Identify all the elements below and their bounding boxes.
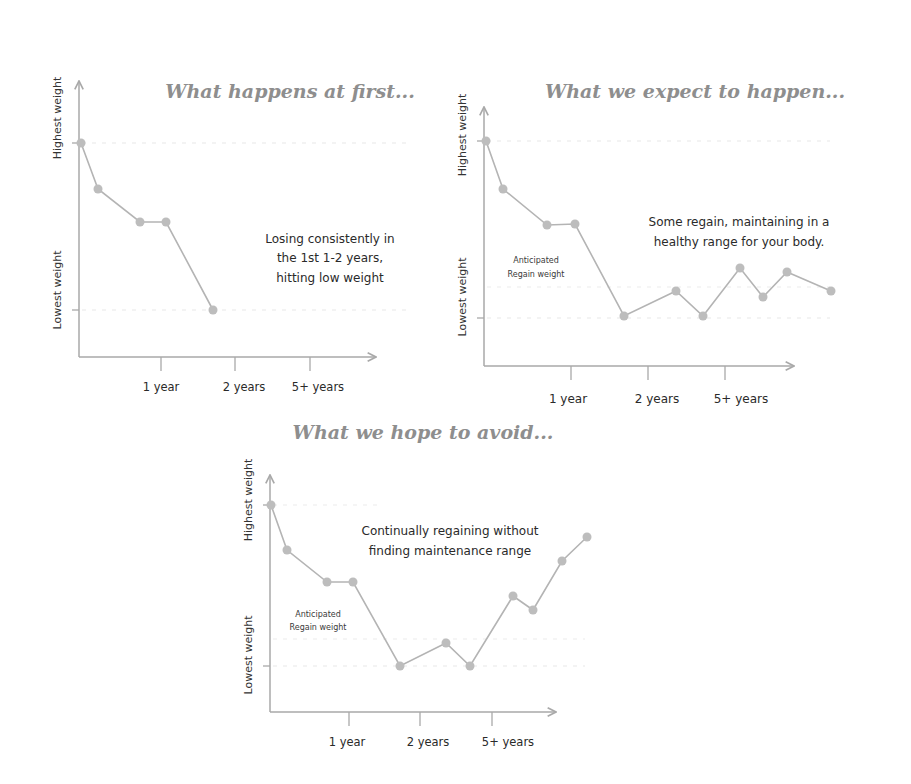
y-label-highest: Highest weight <box>242 458 255 541</box>
x-tick-1-year: 1 year <box>143 380 180 394</box>
weight-line <box>81 143 213 310</box>
x-tick-2-years: 2 years <box>223 380 266 394</box>
y-label-lowest: Lowest weight <box>51 250 64 330</box>
chart-what-happens-at-first: What happens at first... Highest weight … <box>51 76 415 394</box>
axes <box>72 82 375 371</box>
svg-text:Losing consistently in: Losing consistently in <box>265 232 394 246</box>
annotation: Continually regaining without finding ma… <box>362 524 539 558</box>
chart-what-we-expect: What we expect to happen... Highest weig… <box>456 80 845 406</box>
svg-text:Anticipated: Anticipated <box>295 610 341 619</box>
x-tick-5-years: 5+ years <box>292 380 344 394</box>
svg-text:hitting low weight: hitting low weight <box>276 271 384 285</box>
svg-text:Regain weight: Regain weight <box>290 623 347 632</box>
x-tick-5-years: 5+ years <box>714 392 769 406</box>
chart-title: What happens at first... <box>165 80 415 102</box>
y-label-lowest: Lowest weight <box>242 615 255 695</box>
data-points <box>77 139 218 315</box>
svg-text:Anticipated: Anticipated <box>513 256 559 265</box>
svg-text:Continually regaining without: Continually regaining without <box>362 524 539 538</box>
y-label-highest: Highest weight <box>51 76 64 159</box>
x-tick-2-years: 2 years <box>635 392 679 406</box>
weight-charts-canvas: What happens at first... Highest weight … <box>0 0 911 784</box>
anticipated-regain-label: Anticipated Regain weight <box>508 256 565 279</box>
x-tick-1-year: 1 year <box>329 735 366 749</box>
x-tick-2-years: 2 years <box>407 735 450 749</box>
x-tick-1-year: 1 year <box>549 392 587 406</box>
y-label-highest: Highest weight <box>456 93 469 176</box>
axes <box>263 476 555 726</box>
svg-text:Regain weight: Regain weight <box>508 270 565 279</box>
svg-text:finding maintenance range: finding maintenance range <box>369 544 531 558</box>
guide-lines <box>487 141 830 318</box>
anticipated-regain-label: Anticipated Regain weight <box>290 610 347 632</box>
annotation: Some regain, maintaining in a healthy ra… <box>649 215 830 249</box>
chart-what-we-hope-to-avoid: What we hope to avoid... Highest weight … <box>242 421 592 749</box>
chart-title: What we hope to avoid... <box>293 421 554 443</box>
svg-text:the 1st 1-2 years,: the 1st 1-2 years, <box>277 251 383 265</box>
annotation: Losing consistently in the 1st 1-2 years… <box>265 232 394 285</box>
svg-text:Some regain, maintaining in a: Some regain, maintaining in a <box>649 215 830 229</box>
y-label-lowest: Lowest weight <box>456 257 469 337</box>
chart-title: What we expect to happen... <box>545 80 845 102</box>
x-tick-5-years: 5+ years <box>482 735 534 749</box>
svg-text:healthy range for your body.: healthy range for your body. <box>654 235 825 249</box>
